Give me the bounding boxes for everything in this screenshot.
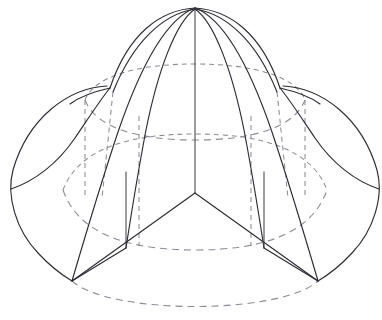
figure-canvas (0, 0, 382, 320)
geometric-figure-svg (0, 0, 382, 320)
